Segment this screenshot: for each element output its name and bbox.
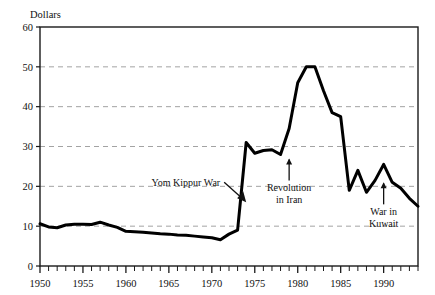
x-tick-label-1990: 1990 — [373, 278, 394, 289]
x-tick-label-1960: 1960 — [115, 278, 136, 289]
x-tick-label-1950: 1950 — [30, 278, 51, 289]
x-tick-label-1975: 1975 — [244, 278, 265, 289]
x-tick-label-1965: 1965 — [158, 278, 179, 289]
annotation-text-war-in-kuwait: Kuwait — [369, 218, 399, 229]
y-axis-title: Dollars — [30, 9, 61, 20]
chart-canvas: 0102030405060 19501955196019651970197519… — [0, 0, 435, 295]
x-tick-label-1985: 1985 — [330, 278, 351, 289]
annotation-text-revolution-in-iran: in Iran — [276, 194, 302, 205]
annotation-text-revolution-in-iran: Revolution — [267, 182, 311, 193]
chart-background — [0, 0, 435, 295]
annotation-text-yom-kippur-war: Yom Kippur War — [152, 177, 221, 188]
x-tick-label-1955: 1955 — [72, 278, 93, 289]
y-tick-label-20: 20 — [23, 181, 34, 192]
annotation-text-war-in-kuwait: War in — [370, 206, 397, 217]
y-tick-label-60: 60 — [23, 22, 34, 33]
x-tick-label-1970: 1970 — [201, 278, 222, 289]
y-tick-label-30: 30 — [23, 141, 34, 152]
y-tick-label-50: 50 — [23, 62, 34, 73]
y-tick-label-40: 40 — [23, 101, 34, 112]
oil-price-chart: 0102030405060 19501955196019651970197519… — [0, 0, 435, 295]
y-tick-label-0: 0 — [28, 261, 33, 272]
x-tick-label-1980: 1980 — [287, 278, 308, 289]
y-tick-label-10: 10 — [23, 221, 34, 232]
